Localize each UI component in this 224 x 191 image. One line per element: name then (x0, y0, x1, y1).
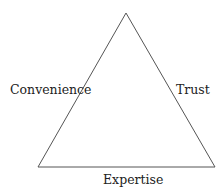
label-convenience: Convenience (10, 84, 92, 97)
triangle-diagram: Convenience Trust Expertise (0, 0, 224, 191)
label-expertise: Expertise (103, 174, 163, 187)
label-trust: Trust (176, 84, 210, 97)
